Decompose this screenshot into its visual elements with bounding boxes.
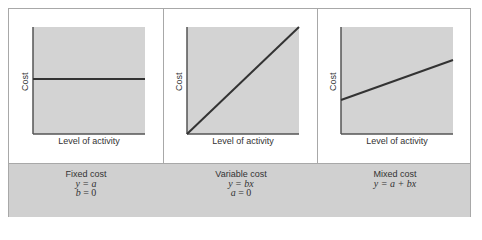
mixed-cost-chart (341, 27, 453, 134)
condition-value: = 0 (81, 187, 97, 198)
condition-value: = 0 (236, 187, 252, 198)
variable-cost-chart (187, 27, 299, 134)
caption-mixed-cost: Mixed cost y = a + bx (318, 170, 472, 188)
x-axis-label: Level of activity (187, 136, 299, 146)
plot-area-variable (187, 27, 299, 134)
caption-variable-cost: Variable cost y = bx a = 0 (164, 170, 318, 197)
y-axis-label: Cost (20, 72, 30, 91)
equation-rhs: a + bx (390, 178, 416, 189)
variable-cost-line (187, 27, 299, 134)
plot-area-fixed (33, 27, 145, 134)
x-axis-label: Level of activity (341, 136, 453, 146)
caption-condition: a = 0 (164, 188, 318, 197)
caption-fixed-cost: Fixed cost y = a b = 0 (9, 170, 163, 197)
caption-equation: y = a + bx (318, 179, 472, 188)
x-axis-label: Level of activity (33, 136, 145, 146)
y-axis-label: Cost (174, 72, 184, 91)
fixed-cost-chart (33, 27, 145, 134)
caption-condition: b = 0 (9, 188, 163, 197)
y-axis-label: Cost (328, 72, 338, 91)
equation-lhs: y = (374, 178, 390, 189)
plot-area-mixed (341, 27, 453, 134)
mixed-cost-line (341, 60, 453, 100)
